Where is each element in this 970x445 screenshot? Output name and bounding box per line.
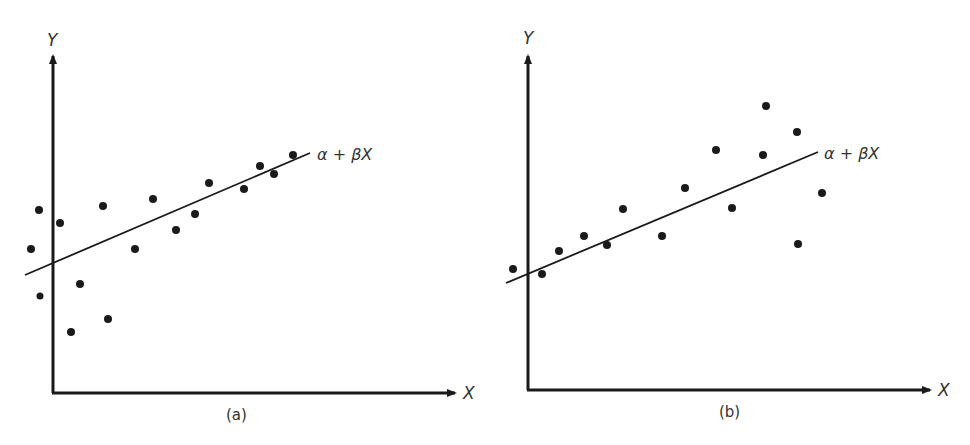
- y-axis-label: Y: [523, 28, 535, 48]
- regression-line-label: α + βX: [824, 144, 880, 163]
- regression-line: [25, 153, 310, 275]
- regression-line-label: α + βX: [317, 145, 373, 164]
- panel-b: Y X α + βX (b): [506, 28, 950, 421]
- panel-caption: (b): [719, 403, 740, 421]
- data-points: [27, 151, 297, 336]
- y-axis-label: Y: [47, 30, 59, 50]
- panel-a: Y X α + βX (a): [25, 30, 475, 424]
- x-axis-label: X: [462, 383, 475, 403]
- panel-caption: (a): [226, 406, 247, 424]
- data-points: [509, 102, 826, 278]
- regression-line: [506, 152, 818, 283]
- regression-figure: Y X α + βX (a) Y X α + βX (b): [0, 0, 970, 445]
- x-axis-label: X: [937, 380, 950, 400]
